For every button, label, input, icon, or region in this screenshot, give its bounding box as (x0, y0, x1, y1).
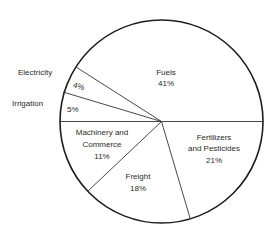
pie-chart: Fuels 41% Fertilizers and Pesticides 21%… (0, 0, 279, 238)
machinery-line1: Machinery and (76, 128, 128, 137)
fuels-name: Fuels (156, 68, 176, 77)
fertilizers-pct: 21% (206, 156, 222, 165)
fertilizers-line2: and Pesticides (188, 144, 240, 153)
irrigation-pct: 5% (67, 105, 79, 114)
irrigation-name: Irrigation (12, 99, 43, 108)
fertilizers-line1: Fertilizers (197, 133, 232, 142)
freight-pct: 18% (130, 184, 146, 193)
machinery-pct: 11% (94, 152, 109, 161)
fuels-pct: 41% (158, 79, 174, 88)
freight-name: Freight (126, 172, 152, 181)
machinery-line2: Commerce (82, 140, 122, 149)
electricity-name: Electricity (18, 68, 52, 77)
